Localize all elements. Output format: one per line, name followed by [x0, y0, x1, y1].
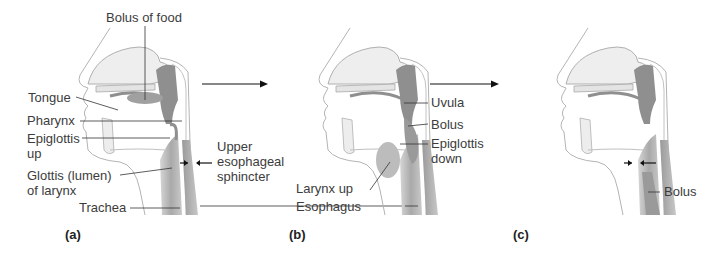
label-pharynx: Pharynx: [27, 113, 75, 128]
label-glottis-line1: Glottis (lumen): [27, 168, 112, 183]
label-bolus-c: Bolus: [664, 184, 697, 199]
panel-c-artwork: [557, 28, 676, 215]
label-bolus-of-food: Bolus of food: [106, 10, 182, 25]
label-epiglottis-down-line1: Epiglottis: [431, 136, 484, 151]
swallowing-diagram-artwork: [0, 0, 718, 257]
label-epiglottis-up-line2: up: [27, 146, 41, 161]
label-epiglottis-down-line2: down: [431, 151, 462, 166]
stage-arrow-a-to-b: [202, 81, 268, 88]
label-ues-line3: sphincter: [217, 169, 270, 184]
label-glottis-line2: of larynx: [27, 183, 76, 198]
label-larynx-up: Larynx up: [296, 181, 353, 196]
panel-letter-c: (c): [513, 227, 529, 242]
stage-arrow-b-to-c: [430, 81, 499, 88]
label-uvula: Uvula: [431, 95, 464, 110]
label-ues-line1: Upper: [217, 139, 252, 154]
label-ues-line2: esophageal: [217, 154, 284, 169]
panel-a-artwork: [79, 28, 212, 215]
panel-letter-a: (a): [65, 227, 81, 242]
label-trachea: Trachea: [79, 200, 126, 215]
panel-letter-b: (b): [289, 227, 306, 242]
label-tongue: Tongue: [28, 90, 71, 105]
label-bolus-b: Bolus: [431, 117, 464, 132]
label-esophagus: Esophagus: [296, 199, 361, 214]
label-epiglottis-up-line1: Epiglottis: [27, 131, 80, 146]
